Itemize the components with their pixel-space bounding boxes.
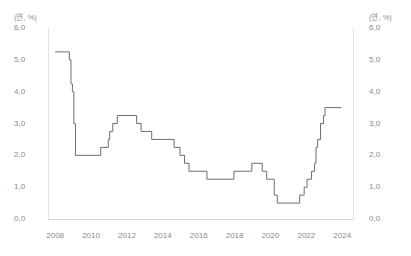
series-path-base-rate: [55, 52, 341, 203]
y-axis-tick-label-right: 0,0: [369, 214, 395, 223]
x-axis-tick-label: 2020: [262, 231, 280, 240]
x-axis-tick-label: 2016: [190, 231, 208, 240]
x-axis-tick-label: 2014: [154, 231, 172, 240]
chart-container: (연, %) (연, %) 6,05,04,03,02,01,00,0 6,05…: [0, 0, 411, 256]
y-axis-tick-label-left: 4,0: [14, 87, 40, 96]
y-axis-tick-label-left: 0,0: [14, 214, 40, 223]
y-axis-tick-label-right: 3,0: [369, 119, 395, 128]
x-axis-tick-label: 2010: [82, 231, 100, 240]
x-axis-tick-label: 2024: [333, 231, 351, 240]
plot-area: [48, 28, 353, 219]
plot-frame-bottom-border: [48, 219, 354, 220]
y-axis-tick-label-right: 2,0: [369, 150, 395, 159]
y-axis-tick-label-left: 3,0: [14, 119, 40, 128]
x-axis-tick-label: 2012: [118, 231, 136, 240]
y-axis-tick-label-left: 2,0: [14, 150, 40, 159]
y-axis-tick-label-left: 6,0: [14, 23, 40, 32]
x-axis-tick-label: 2018: [226, 231, 244, 240]
y-axis-tick-label-right: 1,0: [369, 182, 395, 191]
x-axis-tick-label: 2008: [46, 231, 64, 240]
y-axis-unit-label-right: (연, %): [369, 11, 392, 22]
y-axis-unit-label-left: (연, %): [14, 11, 37, 22]
y-axis-tick-label-right: 6,0: [369, 23, 395, 32]
y-axis-tick-label-left: 5,0: [14, 55, 40, 64]
base-rate-step-line: [48, 28, 353, 219]
y-axis-tick-label-right: 5,0: [369, 55, 395, 64]
y-axis-tick-label-left: 1,0: [14, 182, 40, 191]
plot-frame-right-border: [353, 28, 354, 219]
y-axis-tick-label-right: 4,0: [369, 87, 395, 96]
x-axis-tick-label: 2022: [297, 231, 315, 240]
